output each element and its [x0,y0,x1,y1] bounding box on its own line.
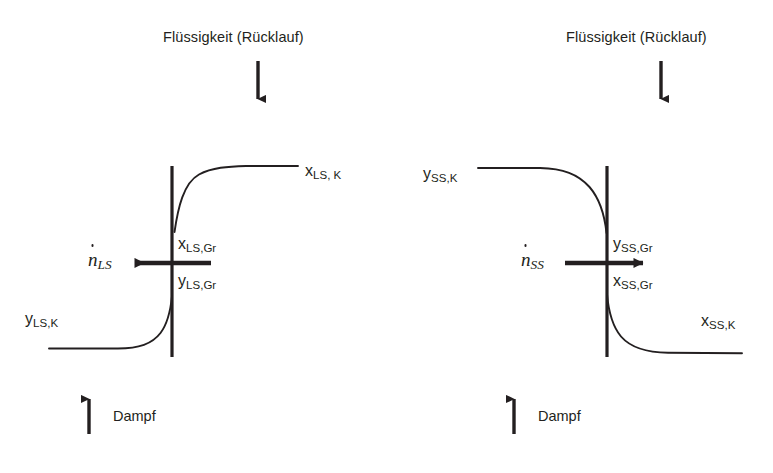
left-label-y-ls-gr: yLS,Gr [178,273,216,292]
right-label-y-ss-k-symbol: y [423,165,431,182]
right-vapour-profile-curve [478,168,607,233]
left-label-y-ls-k: yLS,K [25,311,58,330]
left-label-y-ls-gr-sub: LS,Gr [186,279,216,291]
left-label-y-ls-gr-symbol: y [178,272,186,289]
right-label-x-ss-k: xSS,K [701,313,735,332]
left-liquid-profile-curve [175,166,299,232]
left-label-y-ls-k-symbol: y [25,310,33,327]
left-molar-flow-symbol: n [88,250,98,269]
right-molar-flow-symbol: n [521,250,531,269]
left-label-x-ls-k-sub: LS, K [313,169,341,181]
right-molar-flow-sub: SS [531,257,544,272]
right-molar-flow-letter: n [521,249,531,270]
right-label-y-ss-gr: ySS,Gr [613,236,652,255]
right-label-y-ss-gr-symbol: y [613,235,621,252]
left-label-x-ls-gr-symbol: x [178,235,186,252]
right-label-y-ss-k: ySS,K [423,166,457,185]
left-label-molar-flow-ls: nLS [88,250,112,272]
time-derivative-dot-icon [524,244,527,247]
left-heading-liquid-reflux: Flüssigkeit (Rücklauf) [163,30,304,45]
right-panel-graphics [478,61,742,434]
right-label-molar-flow-ss: nSS [521,250,544,272]
left-label-dampf: Dampf [113,409,156,424]
right-label-x-ss-k-symbol: x [701,312,709,329]
right-label-y-ss-k-sub: SS,K [431,172,457,184]
left-panel-graphics [49,61,298,434]
right-label-x-ss-k-sub: SS,K [709,319,735,331]
right-label-y-ss-gr-sub: SS,Gr [621,242,652,254]
right-label-x-ss-gr-sub: SS,Gr [621,279,652,291]
right-heading-liquid-reflux: Flüssigkeit (Rücklauf) [566,30,707,45]
left-molar-flow-letter: n [88,249,98,270]
left-vapour-profile-curve [49,296,172,349]
right-label-dampf: Dampf [538,409,581,424]
time-derivative-dot-icon [91,244,94,247]
left-molar-flow-sub: LS [98,257,112,272]
left-label-x-ls-k-symbol: x [305,162,313,179]
left-label-x-ls-gr-sub: LS,Gr [186,242,216,254]
left-label-y-ls-k-sub: LS,K [33,317,58,329]
diagram-canvas [0,0,773,473]
left-label-x-ls-k: xLS, K [305,163,341,182]
right-label-x-ss-gr: xSS,Gr [613,273,652,292]
left-label-x-ls-gr: xLS,Gr [178,236,216,255]
right-label-x-ss-gr-symbol: x [613,272,621,289]
